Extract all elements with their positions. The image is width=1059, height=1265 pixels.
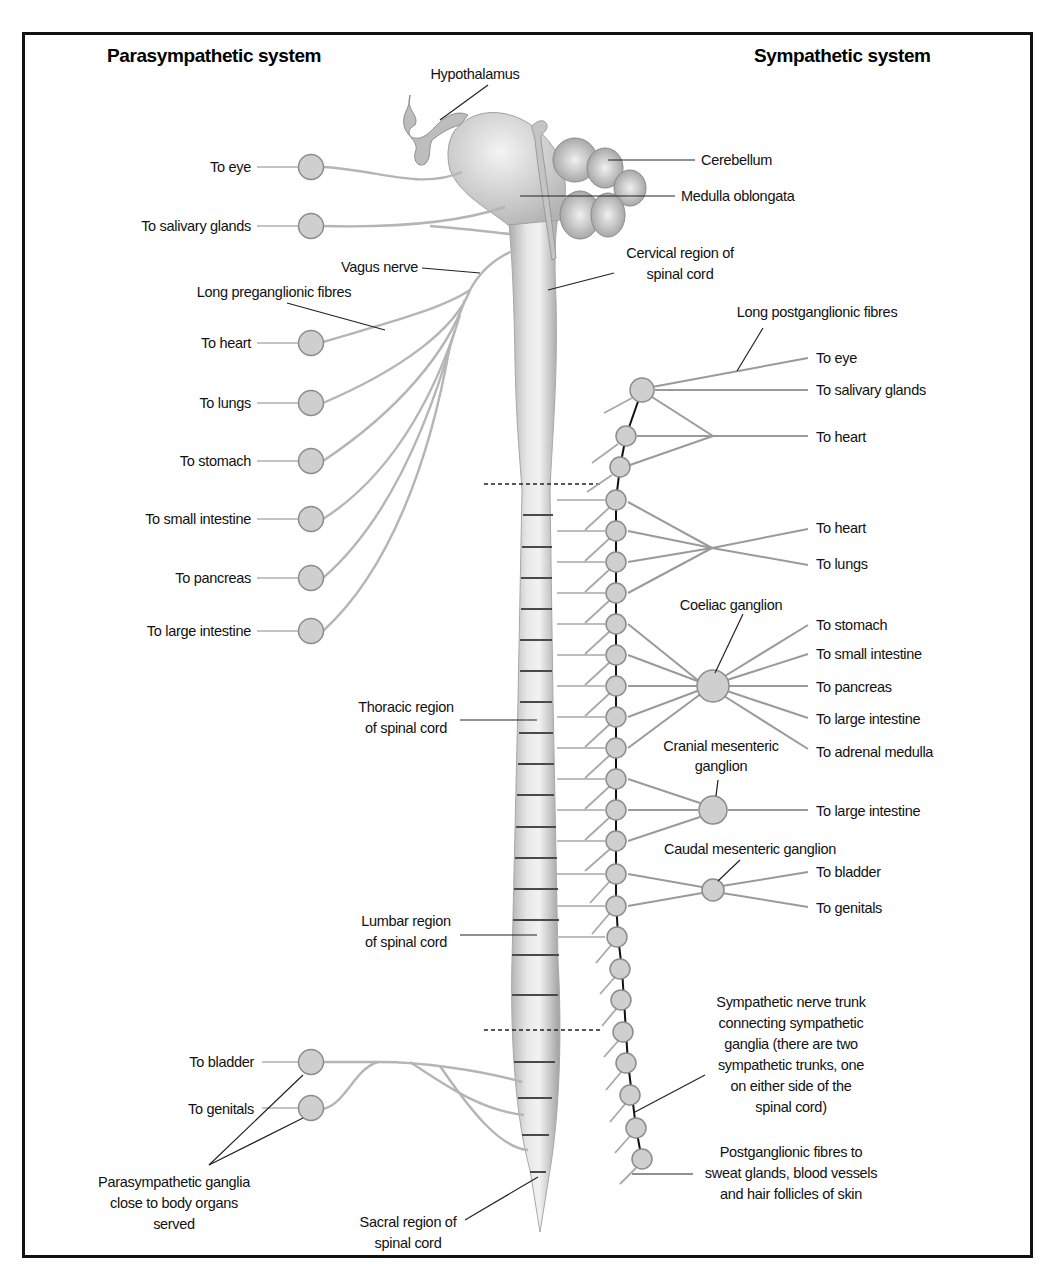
para-label-large-intestine: To large intestine <box>147 623 251 639</box>
para-label-eye: To eye <box>210 159 251 175</box>
ganglia-note-leader-1 <box>209 1075 303 1165</box>
cranial-mesenteric-ganglion <box>699 796 727 824</box>
ganglion-large-intestine <box>299 619 324 644</box>
coeliac-label: Coeliac ganglion <box>680 597 783 613</box>
svg-text:Postganglionic fibres to: Postganglionic fibres to <box>720 1144 863 1160</box>
svg-text:served: served <box>153 1216 195 1232</box>
svg-text:Parasympathetic ganglia: Parasympathetic ganglia <box>98 1174 251 1190</box>
svg-text:spinal cord): spinal cord) <box>755 1099 826 1115</box>
para-label-genitals: To genitals <box>188 1101 254 1117</box>
coeliac-ganglion <box>697 670 729 702</box>
ganglion-genitals <box>299 1096 324 1121</box>
sympathetic-title: Sympathetic system <box>754 45 931 66</box>
ganglion-pancreas <box>299 566 324 591</box>
caudal-mes-label: Caudal mesenteric ganglion <box>664 841 836 857</box>
para-label-pancreas: To pancreas <box>175 570 251 586</box>
symp-label-bladder: To bladder <box>816 864 881 880</box>
caudal-mesenteric-ganglion <box>702 879 724 901</box>
cervical-label-1: Cervical region of <box>626 245 735 261</box>
preganglionic-leader <box>287 303 385 330</box>
para-label-small-intestine: To small intestine <box>145 511 251 527</box>
lumbar-label-1: Lumbar region <box>361 913 451 929</box>
parasympathetic-fibres <box>323 167 528 1150</box>
autonomic-nervous-system-diagram: Parasympathetic system Sympathetic syste… <box>0 0 1059 1265</box>
parasympathetic-title: Parasympathetic system <box>107 45 321 66</box>
para-label-stomach: To stomach <box>180 453 251 469</box>
preganglionic-label: Long preganglionic fibres <box>197 284 352 300</box>
postganglionic-skin-note: Postganglionic fibres to sweat glands, b… <box>705 1144 877 1202</box>
symp-label-large-intestine-2: To large intestine <box>816 803 920 819</box>
spinal-cord <box>508 205 560 1232</box>
svg-text:connecting sympathetic: connecting sympathetic <box>719 1015 864 1031</box>
medulla-label: Medulla oblongata <box>681 188 796 204</box>
para-label-lungs: To lungs <box>199 395 251 411</box>
trunk-note: Sympathetic nerve trunk connecting sympa… <box>716 994 866 1115</box>
sympathetic-labels: To eye To salivary glands To heart To he… <box>816 350 934 916</box>
symp-label-heart-2: To heart <box>816 520 866 536</box>
symp-label-genitals: To genitals <box>816 900 882 916</box>
parasympathetic-ganglia-note: Parasympathetic ganglia close to body or… <box>98 1174 251 1232</box>
trunk-note-leader <box>635 1075 705 1112</box>
svg-text:and hair follicles of skin: and hair follicles of skin <box>720 1186 862 1202</box>
postganglionic-label: Long postganglionic fibres <box>737 304 898 320</box>
sympathetic-chain-ganglia <box>606 378 654 1169</box>
symp-label-lungs: To lungs <box>816 556 868 572</box>
cervical-leader <box>548 273 614 290</box>
caudal-mes-leader <box>718 860 740 881</box>
ganglion-stomach <box>299 449 324 474</box>
ganglia-note-leader-2 <box>209 1118 303 1165</box>
ramus-stubs <box>557 500 605 937</box>
thoracic-label-2: of spinal cord <box>365 720 447 736</box>
hypothalamus-label: Hypothalamus <box>430 66 519 82</box>
symp-label-large-intestine-1: To large intestine <box>816 711 920 727</box>
sacral-leader <box>465 1177 538 1220</box>
parasympathetic-labels: To eye To salivary glands To heart To lu… <box>141 159 254 1117</box>
cerebellum-label: Cerebellum <box>701 152 772 168</box>
para-label-bladder: To bladder <box>189 1054 254 1070</box>
sacral-label-2: spinal cord <box>375 1235 442 1251</box>
symp-label-adrenal: To adrenal medulla <box>816 744 934 760</box>
cerebellum <box>553 138 646 239</box>
ganglion-bladder <box>299 1050 324 1075</box>
cranial-mes-leader <box>716 780 718 796</box>
symp-label-salivary: To salivary glands <box>816 382 926 398</box>
cranial-mes-label-1: Cranial mesenteric <box>663 738 779 754</box>
sympathetic-fibres <box>628 358 808 907</box>
thoracic-label-1: Thoracic region <box>358 699 454 715</box>
ganglion-eye <box>299 155 324 180</box>
cranial-mes-label-2: ganglion <box>695 758 748 774</box>
ganglion-heart <box>299 331 324 356</box>
para-label-salivary: To salivary glands <box>141 218 251 234</box>
svg-text:Sympathetic nerve trunk: Sympathetic nerve trunk <box>716 994 866 1010</box>
lumbar-label-2: of spinal cord <box>365 934 447 950</box>
symp-label-heart-1: To heart <box>816 429 866 445</box>
svg-text:on either side of the: on either side of the <box>730 1078 851 1094</box>
coeliac-leader <box>715 614 743 673</box>
symp-label-eye: To eye <box>816 350 857 366</box>
postganglionic-leader <box>737 328 763 371</box>
ganglion-small-intestine <box>299 507 324 532</box>
svg-text:ganglia (there are two: ganglia (there are two <box>724 1036 858 1052</box>
vagus-leader <box>422 268 480 273</box>
vagus-label: Vagus nerve <box>341 259 418 275</box>
svg-text:sympathetic trunks, one: sympathetic trunks, one <box>718 1057 864 1073</box>
ganglion-lungs <box>299 391 324 416</box>
svg-text:close to body organs: close to body organs <box>110 1195 238 1211</box>
symp-label-pancreas: To pancreas <box>816 679 892 695</box>
ganglion-salivary <box>299 214 324 239</box>
para-label-heart: To heart <box>201 335 251 351</box>
symp-label-small-intestine: To small intestine <box>816 646 922 662</box>
svg-text:sweat glands, blood vessels: sweat glands, blood vessels <box>705 1165 877 1181</box>
sacral-label-1: Sacral region of <box>360 1214 458 1230</box>
symp-label-stomach: To stomach <box>816 617 887 633</box>
cervical-label-2: spinal cord <box>647 266 714 282</box>
